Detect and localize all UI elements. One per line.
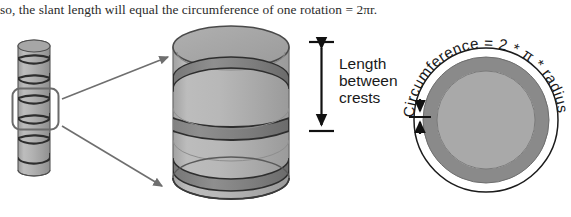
figure-page: so, the slant length will equal the circ… <box>0 0 571 217</box>
large-cylinder-group <box>151 26 289 199</box>
small-rod-body <box>18 40 50 176</box>
length-between-crests-label: Length between crests <box>339 55 417 106</box>
small-rod-group <box>13 40 59 176</box>
crest-label-line-1: Length <box>339 55 417 72</box>
crest-label-line-3: crests <box>339 89 417 106</box>
crest-label-line-2: between <box>339 72 417 89</box>
circle-diagram-group: Circumference = 2 * π * radius <box>400 34 571 192</box>
figure-illustration: Circumference = 2 * π * radius <box>0 0 571 217</box>
callout-arrow-bottom <box>62 126 162 186</box>
callout-arrow-top <box>62 57 168 99</box>
pitch-dimension-group <box>309 42 334 131</box>
small-rod-top-face <box>18 40 50 52</box>
